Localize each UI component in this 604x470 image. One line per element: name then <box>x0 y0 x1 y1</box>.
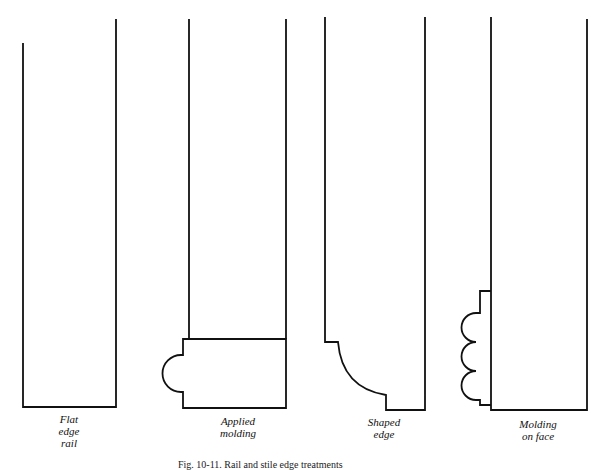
label-shaped-edge: Shaped edge <box>359 416 409 440</box>
flat-edge-rail-outline <box>23 19 116 407</box>
figure-caption: Fig. 10-11. Rail and stile edge treatmen… <box>178 459 343 470</box>
label-flat-edge-rail: Flat edge rail <box>44 413 94 449</box>
molding-on-face-stile <box>491 17 587 410</box>
molding-on-face-profile <box>462 291 492 405</box>
label-molding-on-face: Molding on face <box>508 418 568 442</box>
shaped-edge-outline <box>325 17 425 410</box>
label-applied-molding: Applied molding <box>208 415 268 439</box>
applied-molding-profile <box>163 339 287 408</box>
